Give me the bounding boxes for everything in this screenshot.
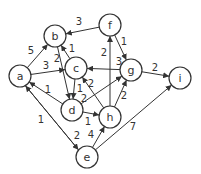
edge-weight-label: 1	[85, 116, 91, 127]
node-label: c	[73, 62, 79, 75]
edge-weight-label: 2	[54, 53, 60, 64]
node-label: d	[69, 104, 76, 117]
edge-line	[73, 79, 75, 99]
node-i: i	[169, 67, 191, 89]
edge-f-to-b	[66, 27, 99, 34]
node-label: i	[178, 72, 181, 85]
edge-weight-label: 3	[43, 60, 49, 71]
edge-g-to-c	[87, 68, 120, 69]
node-h: h	[99, 106, 121, 128]
edge-line	[87, 68, 120, 69]
node-e: e	[76, 146, 98, 168]
edge-weight-label: 1	[38, 114, 44, 125]
node-b: b	[44, 25, 66, 47]
edge-weight-label: 2	[152, 62, 158, 73]
edge-weight-label: 7	[130, 121, 136, 132]
node-label: e	[84, 151, 91, 164]
edge-weight-label: 3	[76, 16, 82, 27]
edge-weight-label: 2	[121, 90, 127, 101]
node-d: d	[61, 99, 83, 121]
edge-weight-label: 2	[81, 93, 87, 104]
node-label: g	[128, 64, 135, 77]
edge-e-to-h	[92, 127, 104, 148]
node-g: g	[120, 59, 142, 81]
node-a: a	[9, 65, 31, 87]
node-label: h	[107, 111, 114, 124]
edge-weight-label: 2	[74, 130, 80, 141]
node-c: c	[65, 57, 87, 79]
node-f: f	[99, 14, 121, 36]
edge-weight-label: 1	[121, 36, 127, 47]
edge-weight-label: 2	[101, 47, 107, 58]
node-label: a	[17, 70, 24, 83]
edge-weight-label: 4	[88, 129, 94, 140]
edge-line	[66, 27, 99, 34]
edge-line	[92, 127, 104, 148]
edge-weight-label: 5	[28, 45, 34, 56]
edge-weight-label: 1	[69, 43, 75, 54]
edge-weight-label: 1	[45, 84, 51, 95]
node-label: b	[52, 30, 59, 43]
directed-graph: 3521332111212221247 abcdefghi	[0, 0, 201, 174]
edge-weight-label: 2	[88, 78, 94, 89]
edge-c-to-d	[73, 79, 75, 99]
